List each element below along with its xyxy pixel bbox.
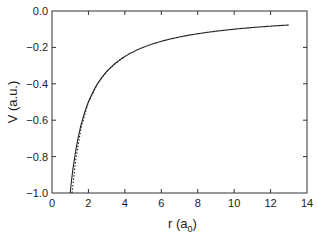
series-solid-line <box>70 25 289 193</box>
x-tick-label: 0 <box>49 197 55 209</box>
x-tick-label: 6 <box>158 197 164 209</box>
x-tick-label: 10 <box>228 197 240 209</box>
potential-chart: 02468101214 0.0−0.2−0.4−0.6−0.8−1.0 r (a… <box>0 0 317 235</box>
y-tick-label: −0.2 <box>26 41 48 53</box>
x-tick-label: 14 <box>301 197 313 209</box>
series-dotted-line <box>72 57 125 194</box>
x-tick-label: 8 <box>195 197 201 209</box>
y-tick-label: 0.0 <box>33 5 48 17</box>
x-tick-label: 2 <box>85 197 91 209</box>
x-axis-label: r (a0) <box>168 216 197 234</box>
y-tick-label: −0.6 <box>26 114 48 126</box>
x-tick-label: 4 <box>122 197 128 209</box>
x-axis-ticks: 02468101214 <box>49 11 313 209</box>
y-tick-label: −0.8 <box>26 151 48 163</box>
x-tick-label: 12 <box>264 197 276 209</box>
y-tick-label: −0.4 <box>26 78 48 90</box>
y-axis-ticks: 0.0−0.2−0.4−0.6−0.8−1.0 <box>26 5 307 199</box>
y-axis-label: V (a.u.) <box>5 81 20 124</box>
data-series <box>70 25 289 193</box>
plot-frame <box>52 11 307 193</box>
y-tick-label: −1.0 <box>26 187 48 199</box>
